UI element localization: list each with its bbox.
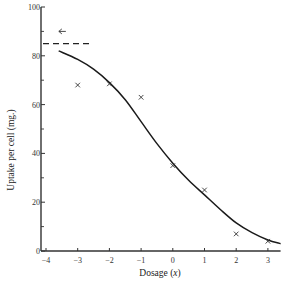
x-marker-icon: [139, 95, 144, 100]
x-tick-label: 3: [266, 256, 270, 265]
x-marker-icon: [234, 232, 239, 237]
x-axis-label: Dosage (x): [139, 268, 180, 279]
y-tick-label: 60: [32, 101, 40, 110]
x-tick-label: −1: [137, 256, 146, 265]
x-marker-icon: [75, 83, 80, 88]
dose-response-chart: 020406080100 −4−3−2−10123 Uptake per cel…: [0, 0, 284, 283]
x-axis: −4−3−2−10123: [41, 248, 281, 265]
annotations: [43, 29, 90, 44]
y-tick-label: 0: [36, 247, 40, 256]
y-axis-label: Uptake per cell (mg.): [6, 109, 17, 190]
x-tick-label: 1: [203, 256, 207, 265]
x-tick-label: 0: [171, 256, 175, 265]
y-axis: 020406080100: [28, 3, 45, 256]
x-marker-icon: [202, 188, 207, 193]
y-tick-label: 20: [32, 198, 40, 207]
x-tick-label: −3: [73, 256, 82, 265]
y-tick-label: 40: [32, 149, 40, 158]
x-tick-label: 2: [234, 256, 238, 265]
x-tick-label: −4: [42, 256, 51, 265]
y-tick-label: 80: [32, 52, 40, 61]
left-arrow-icon: [59, 29, 66, 34]
x-tick-label: −2: [105, 256, 114, 265]
y-tick-label: 100: [28, 3, 40, 12]
fitted-curve: [59, 51, 281, 244]
